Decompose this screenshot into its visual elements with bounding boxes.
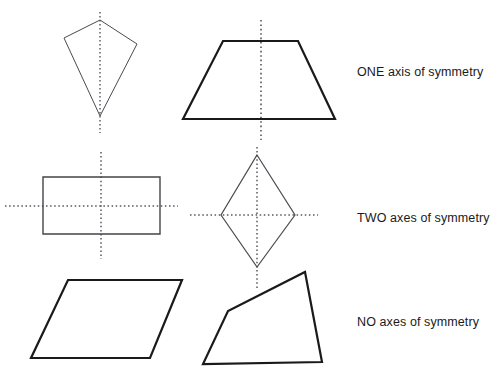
shape-rhombus: [221, 155, 295, 267]
shape-irregular-quadrilateral: [203, 272, 322, 364]
label-two-axes: TWO axes of symmetry: [357, 211, 490, 225]
symmetry-figure-page: ONE axis of symmetry TWO axes of symmetr…: [0, 0, 501, 376]
shape-parallelogram: [31, 280, 182, 358]
label-one-axis: ONE axis of symmetry: [357, 65, 483, 79]
shape-trapezoid: [183, 41, 335, 119]
label-no-axes: NO axes of symmetry: [357, 315, 479, 329]
